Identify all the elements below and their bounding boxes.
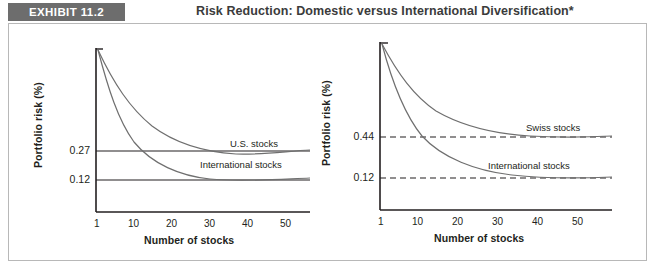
chart-right-series-label-1: International stocks — [488, 160, 570, 171]
chart-right-ylabel: Portfolio risk (%) — [320, 80, 332, 166]
chart-left-xtick-1: 10 — [128, 218, 139, 229]
chart-left-xtick-3: 30 — [204, 218, 215, 229]
chart-right-xtick-0: 1 — [378, 216, 384, 227]
chart-left-xtick-4: 40 — [242, 218, 253, 229]
axes-left — [96, 48, 310, 212]
chart-right-ytick-0: 0.44 — [338, 130, 374, 142]
chart-right-ytick-1: 0.12 — [338, 171, 374, 183]
chart-right-xtick-5: 50 — [572, 216, 583, 227]
curves-right — [382, 44, 612, 178]
chart-left-ytick-1: 0.12 — [54, 173, 90, 185]
chart-left-series-label-1: International stocks — [200, 159, 282, 170]
chart-panel-right: Portfolio risk (%) 0.44 0.12 1 10 20 30 … — [330, 26, 650, 258]
chart-right-xtick-4: 40 — [532, 216, 543, 227]
curve-us-stocks — [98, 50, 310, 154]
curve-international-stocks — [382, 44, 612, 178]
chart-panels: Portfolio risk (%) 0.27 0.12 1 10 20 30 … — [0, 0, 655, 274]
chart-left-xtick-2: 20 — [166, 218, 177, 229]
reference-lines-right — [380, 137, 612, 178]
chart-right-series-label-0: Swiss stocks — [526, 122, 580, 133]
chart-left-xtick-0: 1 — [94, 218, 100, 229]
chart-right-xtick-3: 30 — [492, 216, 503, 227]
chart-left-xtick-5: 50 — [280, 218, 291, 229]
chart-right-xlabel: Number of stocks — [434, 232, 524, 244]
chart-left-ytick-0: 0.27 — [54, 144, 90, 156]
chart-left-xlabel: Number of stocks — [144, 234, 234, 246]
chart-left-series-label-0: U.S. stocks — [230, 138, 278, 149]
chart-panel-left: Portfolio risk (%) 0.27 0.12 1 10 20 30 … — [10, 26, 330, 258]
chart-left-ylabel: Portfolio risk (%) — [32, 82, 44, 168]
chart-right-xtick-2: 20 — [452, 216, 463, 227]
chart-right-xtick-1: 10 — [412, 216, 423, 227]
